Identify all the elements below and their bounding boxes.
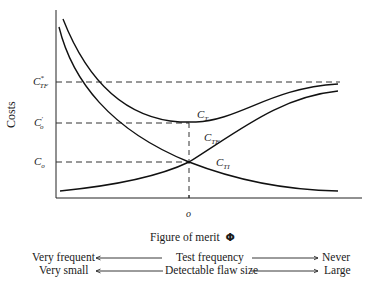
scale-right: Large [324, 265, 351, 277]
x-axis-label: Figure of merit Φ [150, 232, 235, 244]
xtick-o: o [186, 209, 191, 219]
curve-label-sub: TI [223, 163, 229, 171]
x-axis-label-text: Figure of merit [150, 231, 220, 243]
scale-right: Never [322, 252, 350, 264]
scale-left: Very small [39, 265, 89, 277]
label-ct: CT [197, 109, 208, 120]
label-cti: CTI [216, 157, 230, 168]
ytick-co: Co [34, 156, 45, 167]
scale-middle: Test frequency [176, 252, 244, 264]
ytick-ctf-star: C*TF [33, 76, 48, 87]
tick-sub: o [41, 162, 45, 170]
curve-ct [63, 19, 338, 122]
phi-symbol: Φ [226, 231, 235, 244]
scale-row-flaw-size: Very small Detectable flaw size Large [0, 265, 371, 278]
scale-middle: Detectable flaw size [165, 265, 258, 277]
curve-label-sub: T [204, 115, 208, 123]
label-ctf: CTF [204, 132, 220, 143]
tick-sub: TF [40, 82, 48, 90]
ytick-co-prime: C′o [34, 117, 43, 128]
y-axis-label: Costs [4, 101, 19, 128]
tick-sub: o [40, 123, 44, 131]
curve-label-sub: TF [211, 138, 219, 146]
scale-left: Very frequent [32, 252, 95, 264]
